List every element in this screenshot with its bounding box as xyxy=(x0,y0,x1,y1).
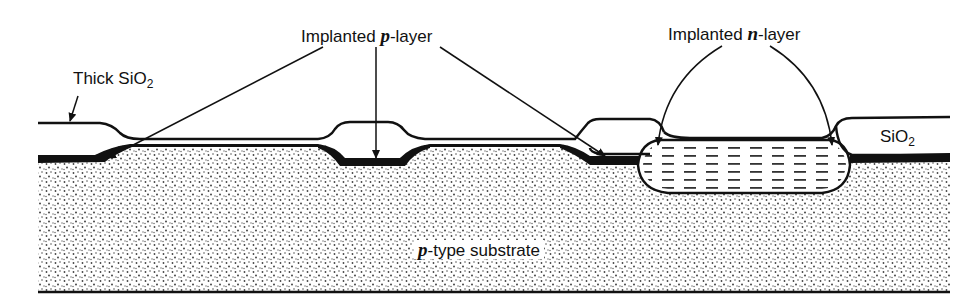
thick-sio2-label: Thick SiO2 xyxy=(73,70,153,90)
implanted-n-layer-label: Implanted n-layer xyxy=(668,24,800,43)
substrate-label: p-type substrate xyxy=(414,240,544,259)
diagram-canvas: Thick SiO2 Implanted p-layer Implanted n… xyxy=(0,0,969,299)
implanted-p-layer-label: Implanted p-layer xyxy=(301,26,432,45)
sio2-label: SiO2 xyxy=(880,128,915,148)
implanted-n-layer xyxy=(638,140,850,193)
